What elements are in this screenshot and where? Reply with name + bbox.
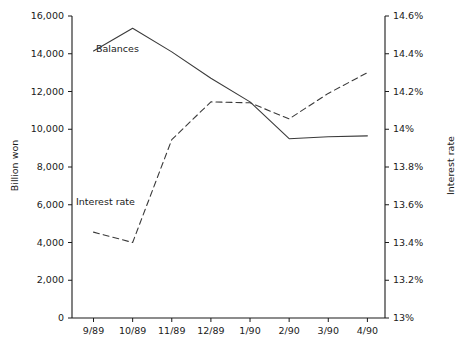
axis-frame — [72, 16, 385, 318]
line-series-balances — [94, 28, 368, 138]
axis-tick-marks — [68, 16, 389, 322]
plot-area — [0, 0, 460, 355]
line-series-interest-rate — [94, 73, 368, 243]
chart-figure: Billion won Interest rate Balances Inter… — [0, 0, 460, 355]
